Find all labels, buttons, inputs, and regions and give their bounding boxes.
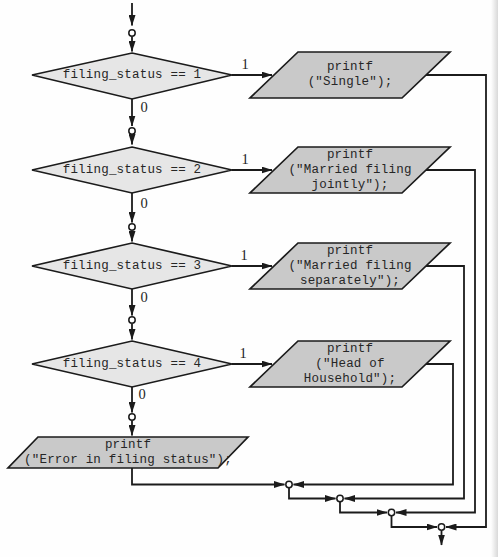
connector-circle-merge-1	[286, 481, 292, 487]
decision-1-false-label: 0	[140, 99, 147, 116]
output-household-label: printf ("Head of Household");	[270, 341, 430, 387]
output-separately-label: printf ("Married filing separately");	[270, 243, 430, 289]
output-single-line-1: printf	[327, 60, 373, 75]
output-single-line-2: ("Single");	[308, 75, 393, 90]
decision-4-false-label: 0	[138, 386, 145, 403]
output-household-line-1: printf	[327, 342, 373, 357]
output-separately-line-1: printf	[327, 244, 373, 259]
connector-circle-start	[129, 30, 135, 36]
output-error-line-1: printf	[105, 438, 151, 453]
decision-3-false-label: 0	[140, 289, 147, 306]
output-household-line-3: Household");	[304, 372, 396, 387]
decision-1-label: filing_status == 1	[32, 67, 232, 83]
output-single-label: printf ("Single");	[270, 52, 430, 98]
connector-circle-d1-d2	[129, 128, 135, 134]
connector-circle-merge-3	[388, 509, 394, 515]
decision-2-true-label: 1	[241, 151, 248, 168]
output-separately-line-2: ("Married filing	[288, 259, 411, 274]
edge-merge-1-2	[289, 488, 336, 499]
edge-merge-3-4	[392, 516, 438, 527]
output-jointly-line-1: printf	[327, 148, 373, 163]
output-jointly-line-2: ("Married filing	[288, 163, 411, 178]
connector-circle-d2-d3	[129, 224, 135, 230]
connector-circle-merge-2	[337, 495, 343, 501]
connector-circle-d4-error	[129, 414, 135, 420]
decision-1-true-label: 1	[241, 56, 248, 73]
decision-4-label: filing_status == 4	[32, 356, 232, 372]
decision-4-true-label: 1	[239, 345, 246, 362]
connector-circle-merge-4	[438, 524, 444, 530]
output-jointly-label: printf ("Married filing jointly");	[270, 147, 430, 193]
output-jointly-line-3: jointly");	[311, 178, 388, 193]
edge-single-return	[426, 75, 486, 527]
output-error-label: printf ("Error in filing status");	[8, 437, 248, 468]
output-household-line-2: ("Head of	[315, 357, 384, 372]
connector-circle-d3-d4	[129, 317, 135, 323]
output-error-line-2: ("Error in filing status");	[24, 453, 232, 468]
edge-merge-2-3	[340, 502, 387, 513]
decision-2-label: filing_status == 2	[32, 162, 232, 178]
output-separately-line-3: separately");	[300, 274, 400, 289]
flowchart: filing_status == 1 filing_status == 2 fi…	[0, 0, 498, 557]
decision-3-true-label: 1	[240, 247, 247, 264]
decision-2-false-label: 0	[140, 195, 147, 212]
decision-3-label: filing_status == 3	[32, 258, 232, 274]
edge-error-return	[132, 468, 285, 485]
